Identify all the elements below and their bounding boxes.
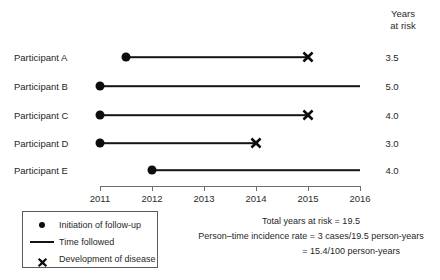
disease-onset-cross-icon	[302, 109, 315, 122]
x-axis-tick-label: 2016	[349, 193, 370, 204]
annotation-incidence-rate: Person–time incidence rate = 3 cases/19.…	[186, 229, 436, 244]
x-axis-tick	[100, 186, 101, 191]
follow-up-line	[152, 169, 360, 171]
legend-glyph	[29, 233, 55, 251]
legend-item: Development of disease	[23, 250, 159, 268]
annotation-total-years: Total years at risk = 19.5	[186, 214, 436, 229]
years-at-risk-value: 5.0	[372, 81, 412, 92]
initiation-dot-marker	[96, 82, 105, 91]
participant-label: Participant D	[14, 138, 94, 149]
x-axis-tick-label: 2015	[297, 193, 318, 204]
participant-label: Participant E	[14, 165, 94, 176]
follow-up-line	[100, 114, 308, 116]
legend: Initiation of follow-upTime followedDeve…	[22, 211, 158, 268]
years-at-risk-column-header: Years at risk	[372, 8, 434, 32]
initiation-dot-marker	[96, 139, 105, 148]
disease-onset-cross-icon	[302, 51, 315, 64]
follow-up-line	[126, 56, 308, 58]
initiation-dot-marker	[122, 53, 131, 62]
years-at-risk-value: 3.5	[372, 52, 412, 63]
legend-item-label: Development of disease	[59, 250, 156, 268]
legend-cross-icon	[37, 254, 48, 265]
initiation-dot-marker	[148, 166, 157, 175]
follow-up-line	[100, 142, 256, 144]
participant-label: Participant B	[14, 81, 94, 92]
disease-onset-cross-icon	[250, 137, 263, 150]
annotation-incidence-result: = 15.4/100 person-years	[186, 244, 436, 259]
years-at-risk-header-line-2: at risk	[372, 20, 434, 32]
calculation-annotations: Total years at risk = 19.5 Person–time i…	[186, 214, 436, 259]
years-at-risk-value: 4.0	[372, 165, 412, 176]
legend-item-label: Initiation of follow-up	[59, 216, 141, 234]
x-axis-tick	[152, 186, 153, 191]
legend-glyph	[29, 216, 55, 234]
legend-glyph	[29, 250, 55, 268]
legend-line-icon	[30, 241, 54, 243]
years-at-risk-header-line-1: Years	[372, 8, 434, 20]
legend-dot-icon	[39, 222, 46, 229]
participant-label: Participant C	[14, 110, 94, 121]
x-axis-tick	[308, 186, 309, 191]
years-at-risk-value: 3.0	[372, 138, 412, 149]
participant-label: Participant A	[14, 52, 94, 63]
legend-item-label: Time followed	[59, 233, 114, 251]
initiation-dot-marker	[96, 111, 105, 120]
person-time-timeline-figure: Years at risk Participant A3.5Participan…	[0, 0, 440, 280]
follow-up-line	[100, 85, 360, 87]
years-at-risk-value: 4.0	[372, 110, 412, 121]
x-axis-tick	[360, 186, 361, 191]
x-axis-tick	[204, 186, 205, 191]
x-axis-tick	[256, 186, 257, 191]
legend-item: Initiation of follow-up	[23, 216, 159, 234]
x-axis-tick-label: 2011	[90, 193, 110, 204]
x-axis-line	[100, 186, 360, 187]
x-axis-tick-label: 2014	[245, 193, 266, 204]
x-axis-tick-label: 2013	[193, 193, 214, 204]
legend-item: Time followed	[23, 233, 159, 251]
x-axis-tick-label: 2012	[141, 193, 162, 204]
